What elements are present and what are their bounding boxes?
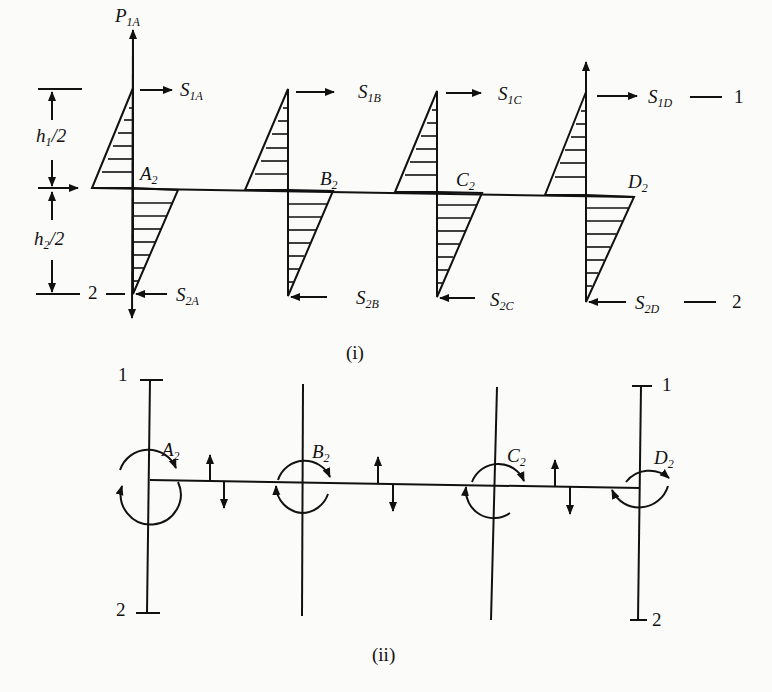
ii-joint-a2: A2 <box>162 440 180 462</box>
shear-s1a: S1A <box>180 80 203 102</box>
caption-i: (i) <box>346 343 364 362</box>
shear-s1b: S1B <box>358 82 381 104</box>
shear-s2d: S2D <box>635 293 659 315</box>
ii-level-1-left: 1 <box>118 365 128 384</box>
shear-s1d: S1D <box>648 87 672 109</box>
dim-h2-half: h2/2 <box>34 229 64 251</box>
ii-joint-d2: D2 <box>654 448 674 470</box>
ii-joint-c2: C2 <box>507 446 526 468</box>
joint-b2: B2 <box>320 169 338 191</box>
level-2-right: 2 <box>732 292 742 311</box>
shear-s1c: S1C <box>498 84 522 106</box>
shear-s2b: S2B <box>356 288 379 310</box>
frame-analysis-figure: P1A h1/2 h2/2 2 A2 S1A S2A B2 S1B S2B C2… <box>0 0 772 692</box>
ii-joint-b2: B2 <box>312 442 330 464</box>
hatch-lines <box>102 108 628 286</box>
level-2-left: 2 <box>88 283 98 302</box>
caption-ii: (ii) <box>372 645 395 664</box>
level-1-right: 1 <box>734 87 744 106</box>
ii-level-2-right: 2 <box>652 610 662 629</box>
joint-d2: D2 <box>628 172 648 194</box>
dim-h1-half: h1/2 <box>36 126 66 148</box>
joint-a2: A2 <box>140 164 158 186</box>
ii-level-2-left: 2 <box>116 600 126 619</box>
shear-s2c: S2C <box>490 290 514 312</box>
joint-c2: C2 <box>456 170 475 192</box>
shear-s2a: S2A <box>176 285 199 307</box>
label-p1a: P1A <box>115 6 140 28</box>
ii-level-1-right: 1 <box>662 375 672 394</box>
